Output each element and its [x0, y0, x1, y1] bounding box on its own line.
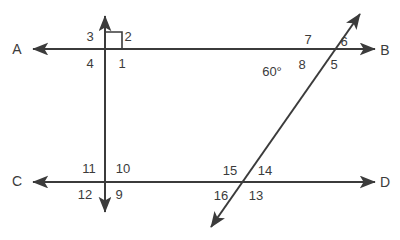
angle-label-4: 4	[86, 57, 93, 70]
line-transversal	[211, 14, 360, 227]
angle-label-6: 6	[340, 35, 347, 48]
angle-label-15: 15	[223, 164, 237, 177]
angle-label-14: 14	[258, 164, 272, 177]
angle-measure-60-label: 60°	[262, 65, 282, 78]
angle-label-3: 3	[86, 30, 93, 43]
point-label-a: A	[12, 42, 21, 56]
angle-label-10: 10	[116, 162, 130, 175]
angle-label-13: 13	[249, 189, 263, 202]
angle-label-11: 11	[82, 162, 96, 175]
angle-label-7: 7	[304, 33, 311, 46]
point-label-c: C	[12, 174, 22, 188]
point-label-b: B	[380, 43, 389, 57]
angle-label-9: 9	[115, 188, 122, 201]
point-label-d: D	[380, 175, 390, 189]
angle-label-8: 8	[298, 58, 305, 71]
angle-label-5: 5	[330, 58, 337, 71]
right-angle-mark-icon	[105, 32, 122, 49]
geometry-figure-canvas: A B C D 1 2 3 4 5 6 7 8 9 10 11 12 13 14…	[0, 0, 400, 240]
angle-label-1: 1	[118, 57, 125, 70]
angle-label-12: 12	[78, 188, 92, 201]
angle-label-2: 2	[124, 30, 131, 43]
angle-label-16: 16	[214, 189, 228, 202]
